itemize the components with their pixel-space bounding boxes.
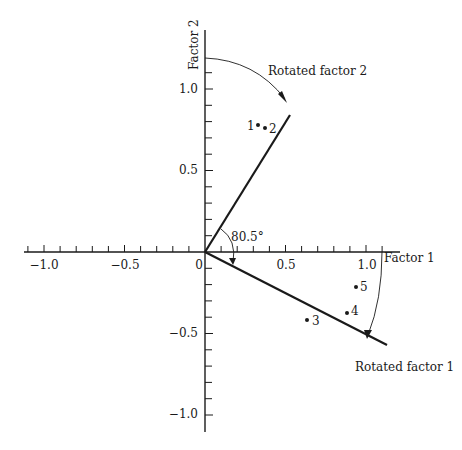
x-tick-label: 0.5 xyxy=(276,258,295,272)
rotated-factor2-label: Rotated factor 2 xyxy=(268,64,367,78)
data-point: 1 xyxy=(247,119,260,133)
y-tick-label: 0.5 xyxy=(179,163,198,177)
data-point: 2 xyxy=(263,122,277,136)
rotated-factor1-label: Rotated factor 1 xyxy=(355,360,454,374)
data-point: 5 xyxy=(354,280,368,294)
svg-text:3: 3 xyxy=(312,314,320,328)
x-tick-label: −1.0 xyxy=(29,258,58,272)
svg-text:1: 1 xyxy=(247,119,255,133)
x-tick-label: 0 xyxy=(195,258,203,272)
x-tick-label: 1.0 xyxy=(357,258,376,272)
data-point: 4 xyxy=(345,304,359,318)
y-tick-label: −0.5 xyxy=(169,326,198,340)
svg-text:5: 5 xyxy=(360,280,368,294)
svg-text:2: 2 xyxy=(269,122,277,136)
data-point: 3 xyxy=(305,314,320,328)
svg-text:4: 4 xyxy=(351,304,359,318)
factor-rotation-diagram: −1.0 −0.5 0 0.5 1.0 1.0 0.5 −0.5 −1.0 Fa… xyxy=(0,0,462,450)
y-tick-label: −1.0 xyxy=(169,407,198,421)
angle-label: 80.5° xyxy=(231,230,264,244)
y-axis-label: Factor 2 xyxy=(187,19,201,70)
x-tick-label: −0.5 xyxy=(110,258,139,272)
x-axis-label: Factor 1 xyxy=(384,251,435,265)
y-tick-label: 1.0 xyxy=(179,82,198,96)
